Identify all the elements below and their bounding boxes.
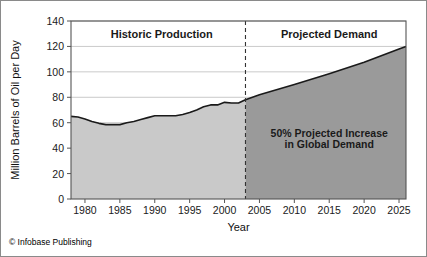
y-axis-title: Million Barrels of Oil per Day [9,40,21,180]
x-axis-title: Year [227,221,250,233]
xtick-label-2025: 2025 [387,204,411,216]
region-label-projected-demand: Projected Demand [281,28,378,40]
xtick-label-2020: 2020 [352,204,376,216]
annotation-line-2: in Global Demand [285,138,374,150]
xtick-label-2000: 2000 [213,204,237,216]
xtick-label-2015: 2015 [318,204,342,216]
xtick-label-2005: 2005 [248,204,272,216]
ytick-label-140: 140 [46,15,64,27]
ytick-label-0: 0 [58,193,64,205]
xtick-label-1995: 1995 [178,204,202,216]
ytick-label-40: 40 [52,142,64,154]
ytick-label-120: 120 [46,40,64,52]
ytick-label-100: 100 [46,66,64,78]
ytick-label-20: 20 [52,168,64,180]
chart-figure: 0204060801001201401980198519901995200020… [0,0,427,257]
oil-production-demand-chart: 0204060801001201401980198519901995200020… [1,1,427,257]
ytick-label-80: 80 [52,91,64,103]
xtick-label-1985: 1985 [108,204,132,216]
xtick-label-2010: 2010 [283,204,307,216]
xtick-label-1980: 1980 [73,204,97,216]
credit-label: © Infobase Publishing [9,237,92,247]
xtick-label-1990: 1990 [143,204,167,216]
region-label-historic-production: Historic Production [111,28,213,40]
annotation-line-1: 50% Projected Increase [271,127,388,139]
ytick-label-60: 60 [52,117,64,129]
